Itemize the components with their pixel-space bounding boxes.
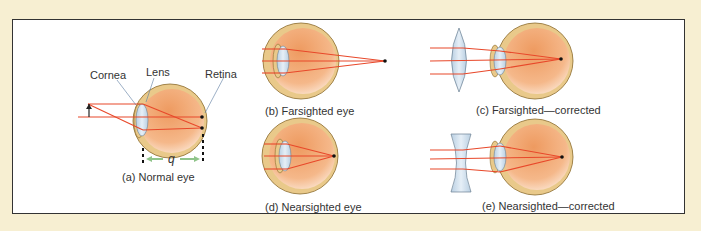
panel-d-nearsighted-eye: (d) Nearsighted eye [262, 118, 362, 213]
retina-label: Retina [205, 68, 238, 80]
panel-b-farsighted-eye: (b) Farsighted eye [262, 23, 387, 117]
caption-b: (b) Farsighted eye [265, 105, 354, 117]
caption-a: (a) Normal eye [122, 171, 195, 183]
lens-icon [136, 104, 148, 136]
concave-lens-icon [451, 134, 471, 192]
distance-label: q [168, 152, 175, 166]
panel-e-nearsighted-corrected: (e) Nearsighted—corrected [430, 119, 615, 212]
cornea-label: Cornea [90, 69, 127, 81]
caption-d: (d) Nearsighted eye [265, 201, 362, 213]
object-arrow-icon [86, 104, 92, 109]
panel-a-normal-eye: Cornea Lens Retina q (a) Normal eye [78, 66, 238, 183]
lens-label: Lens [146, 66, 170, 78]
eye-diagram: Cornea Lens Retina q (a) Normal eye (b) … [0, 0, 701, 231]
caption-e: (e) Nearsighted—corrected [482, 200, 615, 212]
panel-c-farsighted-corrected: (c) Farsighted—corrected [430, 23, 601, 116]
caption-c: (c) Farsighted—corrected [476, 104, 601, 116]
